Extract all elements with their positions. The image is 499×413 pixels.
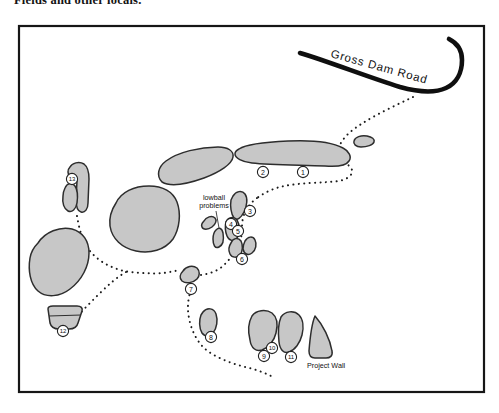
boulder-left-lower-large: [29, 228, 89, 295]
marker-11: 11: [285, 351, 296, 362]
project-wall-label: Project Wall: [307, 361, 345, 370]
svg-text:2: 2: [261, 169, 265, 176]
boulder-lowball-oval: [213, 228, 223, 247]
boulder-small-oval-east: [354, 136, 374, 147]
boulder-lowball-triangle: [202, 217, 216, 230]
svg-text:6: 6: [240, 256, 244, 263]
svg-text:1: 1: [301, 169, 305, 176]
svg-text:8: 8: [209, 334, 213, 341]
boulder-1-2-long: [235, 141, 350, 167]
marker-7: 7: [185, 283, 196, 294]
page: Fields and other locals. Gross Dam Road: [0, 0, 499, 413]
svg-text:7: 7: [189, 286, 193, 293]
boulder-7: [180, 266, 199, 282]
boulder-upper-middle: [159, 147, 234, 185]
marker-6: 6: [236, 253, 247, 264]
svg-text:3: 3: [248, 208, 252, 215]
marker-2: 2: [257, 166, 268, 177]
svg-text:13: 13: [69, 176, 76, 182]
marker-3: 3: [244, 205, 255, 216]
marker-1: 1: [297, 166, 308, 177]
svg-text:4: 4: [229, 221, 233, 228]
svg-text:10: 10: [269, 345, 276, 351]
marker-5: 5: [232, 225, 243, 236]
svg-text:12: 12: [60, 328, 67, 334]
svg-text:5: 5: [236, 228, 240, 235]
svg-text:11: 11: [288, 354, 295, 360]
svg-text:9: 9: [262, 353, 266, 360]
boulder-left-center-large: [110, 186, 180, 252]
lowball-label-line2: problems: [199, 201, 229, 210]
marker-10: 10: [266, 342, 277, 353]
project-wall-boulder: [309, 316, 332, 358]
boulder-13-oval: [63, 184, 78, 212]
marker-13: 13: [66, 173, 77, 184]
marker-12: 12: [57, 325, 68, 336]
marker-8: 8: [205, 331, 216, 342]
boulder-map: Gross Dam Road lowball problems Project: [0, 0, 499, 413]
boulder-6-east: [243, 237, 256, 254]
boulder-11: [278, 312, 303, 353]
